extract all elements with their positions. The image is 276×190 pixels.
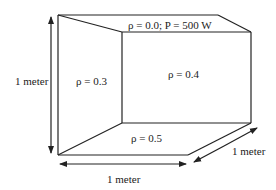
left-wall-label: ρ = 0.3 xyxy=(76,76,107,87)
top-right-slant xyxy=(218,15,251,32)
height-label: 1 meter xyxy=(15,76,48,87)
depth-label: 1 meter xyxy=(232,146,265,157)
floor-left-diagonal xyxy=(58,123,122,155)
depth-arrow-down xyxy=(194,146,224,162)
back-wall-label: ρ = 0.4 xyxy=(168,69,199,80)
ceiling-label: ρ = 0.0; P = 500 W xyxy=(128,20,212,31)
top-left-slant xyxy=(58,15,122,32)
width-label: 1 meter xyxy=(107,174,140,185)
depth-arrow-up xyxy=(224,128,257,146)
floor-label: ρ = 0.5 xyxy=(131,133,162,144)
